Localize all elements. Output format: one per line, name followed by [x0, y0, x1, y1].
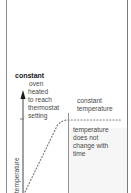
constant-desc-line-2: does not: [73, 134, 98, 142]
heating-note-line-1: oven: [29, 80, 43, 88]
constant-desc-line-4: time: [73, 150, 85, 158]
heating-note-line-2: heated: [28, 88, 48, 96]
constant-desc-line-3: change with: [73, 142, 108, 150]
diagram-title: constant: [15, 72, 44, 79]
constant-desc-line-1: temperature: [73, 126, 109, 134]
constant-label-line-2: temperature: [77, 105, 113, 113]
y-axis-arrow-icon: [21, 90, 26, 99]
heating-note-line-3: to reach: [28, 96, 52, 104]
heating-note-line-5: setting: [28, 112, 47, 120]
y-axis-label: temperature: [13, 157, 20, 193]
constant-label-line-1: constant: [77, 97, 102, 105]
heating-note-line-4: thermostat: [28, 104, 59, 112]
